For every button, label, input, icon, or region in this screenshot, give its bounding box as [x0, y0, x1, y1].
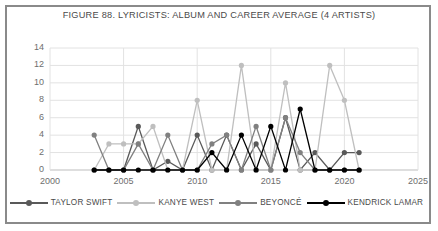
- series-point[interactable]: [195, 98, 200, 103]
- series-point[interactable]: [195, 133, 200, 138]
- y-axis-tick-label: 10: [18, 77, 44, 87]
- series-point[interactable]: [268, 167, 273, 172]
- series-point[interactable]: [195, 167, 200, 172]
- series-point[interactable]: [209, 167, 214, 172]
- series-point[interactable]: [327, 167, 332, 172]
- series-point[interactable]: [180, 167, 185, 172]
- legend-item-label: TAYLOR SWIFT: [51, 198, 113, 207]
- series-point[interactable]: [136, 167, 141, 172]
- legend-line-icon: [138, 202, 155, 204]
- series-point[interactable]: [254, 124, 259, 129]
- legend-item[interactable]: BEYONCÉ: [219, 198, 306, 207]
- legend-item-label: KENDRICK LAMAR: [348, 198, 424, 207]
- series-point[interactable]: [283, 167, 288, 172]
- series-point[interactable]: [357, 167, 362, 172]
- x-axis-tick-label: 2000: [30, 176, 70, 186]
- series-point[interactable]: [298, 167, 303, 172]
- series-point[interactable]: [268, 124, 273, 129]
- series-point[interactable]: [342, 167, 347, 172]
- series-point[interactable]: [239, 133, 244, 138]
- legend-line-icon: [219, 202, 236, 204]
- y-axis-tick-label: 8: [18, 94, 44, 104]
- data-series: [92, 106, 362, 172]
- series-point[interactable]: [298, 150, 303, 155]
- x-axis-tick-label: 2025: [398, 176, 438, 186]
- series-point[interactable]: [312, 167, 317, 172]
- y-axis-tick-label: 2: [18, 147, 44, 157]
- series-point[interactable]: [224, 167, 229, 172]
- x-axis-tick-label: 2020: [324, 176, 364, 186]
- legend-line-icon: [10, 202, 27, 204]
- series-point[interactable]: [136, 124, 141, 129]
- series-point[interactable]: [254, 167, 259, 172]
- series-point[interactable]: [106, 167, 111, 172]
- series-point[interactable]: [106, 141, 111, 146]
- series-point[interactable]: [165, 167, 170, 172]
- series-point[interactable]: [121, 167, 126, 172]
- legend-line-icon: [117, 202, 134, 204]
- y-axis-tick-label: 6: [18, 112, 44, 122]
- legend-line-icon: [240, 202, 257, 204]
- x-axis-tick-label: 2015: [251, 176, 291, 186]
- chart-plot-area: [0, 0, 438, 231]
- chart-legend: TAYLOR SWIFTKANYE WESTBEYONCÉKENDRICK LA…: [0, 198, 438, 207]
- series-point[interactable]: [327, 63, 332, 68]
- series-point[interactable]: [239, 63, 244, 68]
- legend-item[interactable]: KENDRICK LAMAR: [307, 198, 429, 207]
- series-point[interactable]: [150, 167, 155, 172]
- series-point[interactable]: [357, 150, 362, 155]
- series-point[interactable]: [239, 167, 244, 172]
- series-point[interactable]: [92, 133, 97, 138]
- series-point[interactable]: [224, 133, 229, 138]
- legend-line-icon: [328, 202, 345, 204]
- legend-item[interactable]: TAYLOR SWIFT: [10, 198, 118, 207]
- y-axis-tick-label: 12: [18, 59, 44, 69]
- legend-line-icon: [307, 202, 324, 204]
- series-point[interactable]: [209, 141, 214, 146]
- series-point[interactable]: [342, 150, 347, 155]
- series-point[interactable]: [150, 124, 155, 129]
- series-point[interactable]: [121, 141, 126, 146]
- y-axis-tick-label: 4: [18, 129, 44, 139]
- legend-line-icon: [31, 202, 48, 204]
- y-axis-tick-label: 0: [18, 164, 44, 174]
- series-point[interactable]: [342, 98, 347, 103]
- series-point[interactable]: [92, 167, 97, 172]
- series-point[interactable]: [283, 115, 288, 120]
- legend-item-label: KANYE WEST: [158, 198, 214, 207]
- y-axis-tick-label: 14: [18, 42, 44, 52]
- x-axis-tick-label: 2010: [177, 176, 217, 186]
- series-point[interactable]: [209, 150, 214, 155]
- series-point[interactable]: [136, 141, 141, 146]
- series-point[interactable]: [165, 133, 170, 138]
- series-point[interactable]: [283, 80, 288, 85]
- x-axis-tick-label: 2005: [104, 176, 144, 186]
- legend-item-label: BEYONCÉ: [260, 198, 301, 207]
- series-point[interactable]: [254, 141, 259, 146]
- series-point[interactable]: [298, 106, 303, 111]
- legend-item[interactable]: KANYE WEST: [117, 198, 219, 207]
